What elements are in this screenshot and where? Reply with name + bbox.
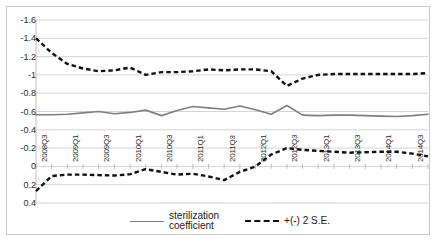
legend-solid-line-icon [130,221,164,222]
legend-item-two-standard-errors: +(-) 2 S.E. [245,216,330,226]
legend-item-sterilization-coefficient: sterilization coefficient [130,211,219,231]
x-axis-tick-label: 2010Q1 [134,135,143,162]
x-axis-tick-label: 2011Q3 [228,136,237,163]
x-axis-tick-label: 2012Q3 [290,135,299,162]
x-axis-tick-label: 2009Q1 [71,135,80,162]
legend-label-line2: coefficient [169,221,219,231]
x-axis-tick-label: 2008Q3 [40,135,49,162]
legend-label-two-standard-errors: +(-) 2 S.E. [284,216,330,226]
x-axis-tick-label: 2010Q3 [165,135,174,162]
x-axis-tick-label: 2011Q1 [196,136,205,163]
chart-legend: sterilization coefficient +(-) 2 S.E. [36,206,424,236]
chart-screenshot: -1.6-1.4-1.2-1-0.8-0.6-0.4-0.200.20.4 20… [0,0,438,243]
x-axis-tick-label: 2014Q1 [384,135,393,162]
x-axis-tick-label: 2013Q1 [322,135,331,162]
x-axis-tick-label: 2014Q3 [416,135,425,162]
legend-dashed-line-icon [245,220,279,222]
x-axis-tick-label: 2012Q1 [259,135,268,162]
legend-label-sterilization-coefficient: sterilization coefficient [169,211,219,231]
x-axis-tick-label: 2009Q3 [102,135,111,162]
x-axis-tick-label: 2013Q3 [353,135,362,162]
